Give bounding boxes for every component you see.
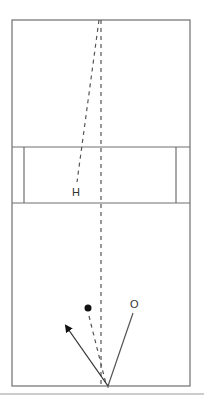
court-diagram: H O [0, 0, 204, 400]
label-h: H [72, 186, 80, 198]
arrow-path [66, 326, 108, 386]
label-o: O [130, 298, 139, 310]
ball-marker [85, 305, 92, 312]
o-solid-path [108, 313, 133, 386]
ball-dashed-path [89, 316, 106, 384]
slant-dashed-line [77, 20, 99, 182]
